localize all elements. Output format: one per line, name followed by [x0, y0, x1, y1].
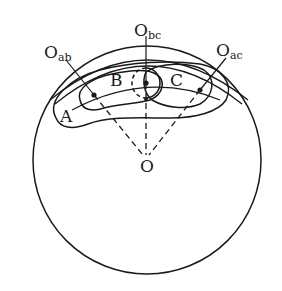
point-bc-bottom [144, 97, 148, 101]
label-region-c: C [170, 70, 183, 90]
radius-o-ab [94, 95, 143, 155]
label-region-b: B [110, 70, 123, 90]
radius-o-ac [149, 90, 200, 155]
point-o-ab [91, 92, 96, 97]
label-o-ab: Oab [44, 42, 72, 64]
leader-o-ab [66, 60, 94, 95]
sphere-diagram: Oab Obc Oac A B C O [0, 0, 282, 291]
label-region-a: A [59, 106, 73, 126]
label-center-o: O [140, 156, 154, 176]
label-o-ac: Oac [216, 40, 243, 62]
label-o-bc: Obc [134, 20, 161, 42]
point-o-bc [143, 80, 148, 85]
point-o-ac [197, 87, 202, 92]
